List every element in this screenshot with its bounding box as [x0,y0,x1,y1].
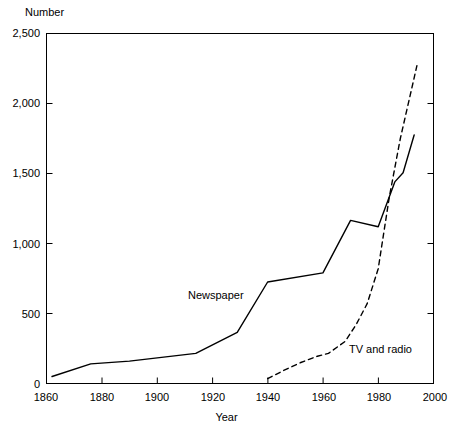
series-line-newspaper [52,135,414,377]
series-label-tv-and-radio: TV and radio [349,344,412,355]
series-line-tv-and-radio [268,66,417,379]
chart-container: Number Year 2,500 2,000 1,500 1,000 500 … [0,0,453,436]
plot-area [0,0,453,436]
plot-frame [47,34,434,384]
series-label-newspaper: Newspaper [188,290,244,301]
x-tick-marks [102,378,378,384]
y-tick-marks [47,104,434,314]
